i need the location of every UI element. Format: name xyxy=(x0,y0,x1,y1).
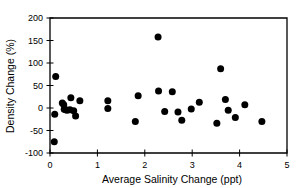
y-tick-label: 100 xyxy=(28,58,43,68)
data-point xyxy=(225,107,232,114)
y-axis-title: Density Change (%) xyxy=(4,39,16,133)
data-point-series xyxy=(51,33,266,145)
data-point xyxy=(135,92,142,99)
plot-frame xyxy=(50,18,287,153)
x-tick-label: 5 xyxy=(284,160,289,170)
x-tick-label: 3 xyxy=(190,160,195,170)
data-point xyxy=(241,101,248,108)
data-point xyxy=(104,105,111,112)
data-point xyxy=(222,96,229,103)
x-tick-label: 1 xyxy=(95,160,100,170)
data-point xyxy=(51,138,58,145)
data-point xyxy=(169,88,176,95)
x-tick-label: 4 xyxy=(237,160,242,170)
y-tick-label: -100 xyxy=(25,148,43,158)
data-point xyxy=(132,118,139,125)
y-tick-label: 200 xyxy=(28,13,43,23)
data-point xyxy=(104,97,111,104)
data-point xyxy=(213,120,220,127)
data-point xyxy=(51,111,58,118)
data-point xyxy=(155,33,162,40)
y-axis: -100-50050100150200 xyxy=(25,13,54,158)
y-tick-label: 0 xyxy=(38,103,43,113)
data-point xyxy=(188,105,195,112)
data-point xyxy=(76,97,83,104)
data-point xyxy=(217,65,224,72)
y-tick-label: 150 xyxy=(28,36,43,46)
data-point xyxy=(161,108,168,115)
x-tick-label: 0 xyxy=(47,160,52,170)
y-tick-label: 50 xyxy=(33,81,43,91)
x-axis-title: Average Salinity Change (ppt) xyxy=(102,173,242,185)
scatter-plot-figure: -100-50050100150200 012345 Average Salin… xyxy=(0,0,302,188)
y-tick-label: -50 xyxy=(30,126,43,136)
axis-frame xyxy=(50,18,287,153)
chart-canvas: -100-50050100150200 012345 Average Salin… xyxy=(0,0,302,188)
data-point xyxy=(52,73,59,80)
x-tick-label: 2 xyxy=(142,160,147,170)
data-point xyxy=(232,114,239,121)
data-point xyxy=(72,113,79,120)
data-point xyxy=(178,117,185,124)
data-point xyxy=(258,118,265,125)
data-point xyxy=(174,109,181,116)
data-point xyxy=(155,87,162,94)
data-point xyxy=(196,99,203,106)
data-point xyxy=(67,94,74,101)
